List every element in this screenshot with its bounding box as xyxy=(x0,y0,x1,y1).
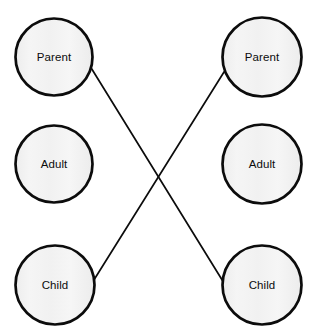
line-left-parent-to-right-child xyxy=(85,58,224,283)
node-left-adult[interactable]: Adult xyxy=(16,126,93,203)
node-right-adult-label: Adult xyxy=(249,158,276,170)
person-right-group: Parent Adult Child xyxy=(223,18,302,325)
transaction-diagram: Parent Adult Child Parent Adult xyxy=(0,0,316,336)
node-right-child[interactable]: Child xyxy=(223,246,302,325)
node-left-parent-label: Parent xyxy=(37,51,72,63)
transaction-lines-group xyxy=(85,58,224,283)
node-right-child-label: Child xyxy=(249,279,276,291)
node-left-adult-label: Adult xyxy=(41,158,68,170)
node-right-adult[interactable]: Adult xyxy=(223,125,302,204)
person-left-group: Parent Adult Child xyxy=(16,19,95,325)
node-left-child[interactable]: Child xyxy=(16,246,95,325)
node-left-parent[interactable]: Parent xyxy=(16,19,93,96)
node-right-parent[interactable]: Parent xyxy=(223,18,302,97)
node-right-parent-label: Parent xyxy=(245,51,280,63)
node-left-child-label: Child xyxy=(42,279,69,291)
transaction-diagram-canvas: Parent Adult Child Parent Adult xyxy=(0,0,316,336)
